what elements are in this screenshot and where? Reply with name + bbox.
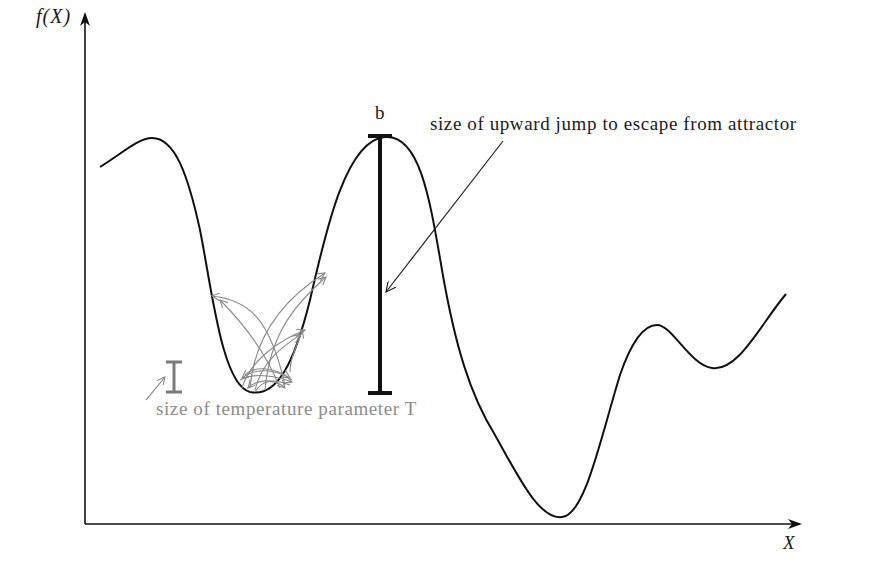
energy-landscape-diagram — [0, 0, 873, 569]
barrier-point-label: b — [375, 102, 385, 124]
landscape-curve — [100, 137, 786, 517]
y-axis-label: f(X) — [36, 5, 71, 28]
temperature-caption-arrow — [146, 377, 165, 400]
barrier-caption: size of upward jump to escape from attra… — [430, 113, 797, 135]
temperature-bar — [166, 362, 182, 392]
barrier-bar — [368, 136, 392, 393]
temperature-caption: size of temperature parameter T — [156, 398, 417, 420]
random-jump-arrows — [212, 273, 326, 392]
x-axis-label: X — [783, 532, 795, 554]
barrier-caption-arrow — [386, 141, 503, 292]
